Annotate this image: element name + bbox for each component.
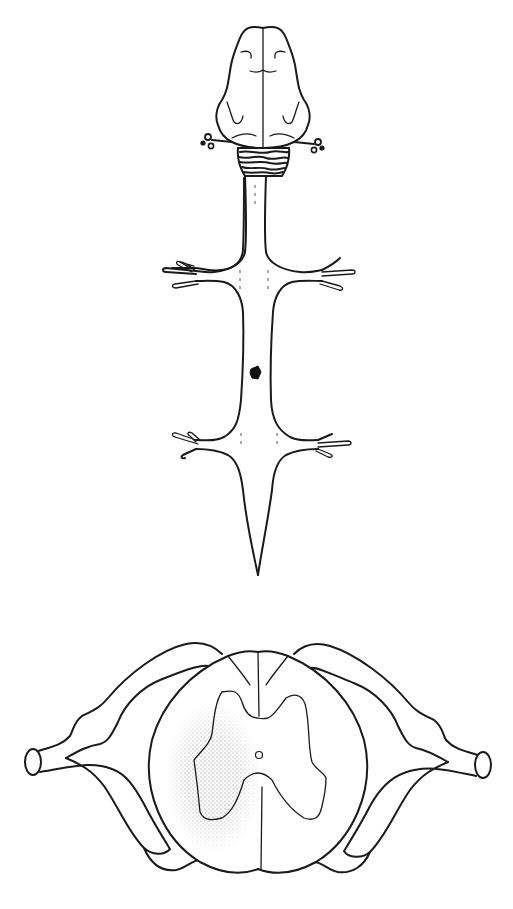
cross-section-panel [25,643,491,873]
dorsal-view-panel [163,27,355,575]
hindlimb-nerves-left [172,432,200,458]
stippled-lesion-area [160,700,270,860]
hindlimb-nerves-right [316,434,351,457]
brain [216,27,309,148]
central-canal [256,752,263,759]
forelimb-nerves-right [320,258,355,290]
lesion-marker [250,366,261,379]
cranial-nerve-right [294,139,325,153]
cerebellum [238,148,289,176]
anatomy-figure [0,0,513,909]
spinal-cord [172,176,322,575]
